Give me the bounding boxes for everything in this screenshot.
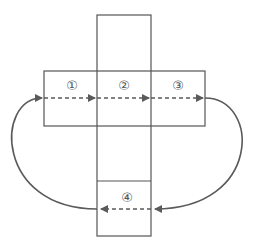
face-label-4: ④ [121,190,133,205]
face-label-1: ① [66,78,78,93]
face-label-3: ③ [172,78,184,93]
curve-3-to-4 [155,98,242,209]
face-label-2: ② [118,78,130,93]
curve-4-to-1 [12,98,97,209]
cube-net-diagram: ① ② ③ ④ [0,0,261,251]
